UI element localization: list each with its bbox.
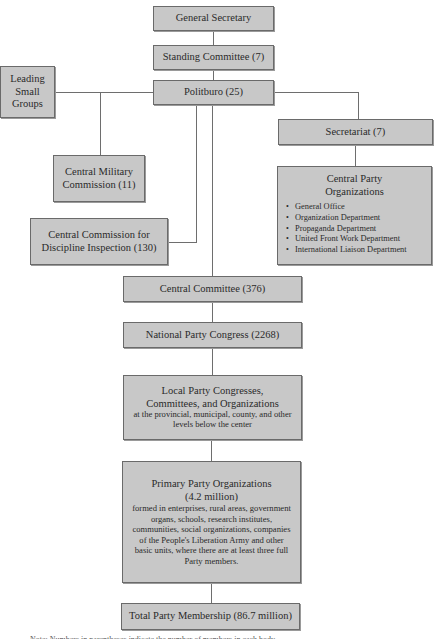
node-label-line: (4.2 million) [185, 491, 238, 504]
node-label-line: Organizations [325, 186, 384, 199]
node-total-membership: Total Party Membership (86.7 million) [121, 603, 300, 630]
node-label-line: Small [15, 86, 40, 99]
connector-secretariat-drop [358, 92, 359, 119]
node-label-line: Primary Party Organizations [152, 478, 272, 491]
connector-gs-sc [213, 31, 214, 45]
footnote: Note: Numbers in parentheses indicate th… [30, 633, 410, 639]
node-label-line: Commission (11) [63, 179, 136, 192]
connector-npc-local [212, 348, 213, 375]
connector-ccdi-horizontal [168, 242, 197, 243]
department-item: Organization Department [286, 213, 407, 224]
node-label: Secretariat (7) [326, 126, 386, 139]
connector-pb-lsg [55, 92, 153, 93]
connector-local-primary [211, 440, 212, 461]
node-label: National Party Congress (2268) [146, 329, 279, 342]
node-label: Central Committee (376) [160, 283, 266, 296]
node-local-party: Local Party Congresses, Committees, and … [123, 375, 302, 440]
department-item: General Office [286, 202, 407, 213]
node-label: Total Party Membership (86.7 million) [129, 610, 292, 623]
node-central-party-organizations: Central Party Organizations General Offi… [277, 166, 432, 265]
node-label-line: Central Commission for [48, 229, 150, 242]
connector-ccdi-vertical [196, 105, 197, 243]
node-description: at the provincial, municipal, county, an… [130, 410, 295, 430]
department-item: United Front Work Department [286, 234, 407, 245]
node-description: formed in enterprises, rural areas, gove… [131, 503, 292, 566]
node-secretariat: Secretariat (7) [278, 119, 433, 145]
node-politburo: Politburo (25) [153, 80, 274, 105]
node-central-committee: Central Committee (376) [123, 276, 302, 302]
node-national-party-congress: National Party Congress (2268) [123, 322, 302, 348]
department-list: General Office Organization Department P… [278, 202, 407, 256]
node-label-line: Discipline Inspection (130) [42, 242, 157, 255]
department-item: International Liaison Department [286, 245, 407, 256]
node-label: Standing Committee (7) [163, 51, 265, 64]
connector-pb-cc [212, 105, 213, 276]
connector-primary-total [211, 583, 212, 603]
node-ccdi: Central Commission for Discipline Inspec… [30, 218, 168, 265]
connector-pb-secretariat [274, 92, 358, 93]
node-standing-committee: Standing Committee (7) [153, 45, 274, 70]
node-central-military-commission: Central Military Commission (11) [53, 155, 145, 202]
node-general-secretary: General Secretary [153, 6, 274, 31]
node-leading-small-groups: Leading Small Groups [0, 66, 55, 118]
connector-sc-pb [213, 70, 214, 80]
connector-secretariat-cpo [355, 145, 356, 166]
connector-cmc [100, 92, 101, 155]
node-label-line: Central Military [65, 166, 133, 179]
department-item: Propaganda Department [286, 224, 407, 235]
node-label-line: Central Party [327, 173, 383, 186]
node-primary-party: Primary Party Organizations (4.2 million… [122, 461, 301, 583]
node-label: General Secretary [176, 12, 252, 25]
connector-cc-npc [212, 302, 213, 322]
node-label-line: Local Party Congresses, [162, 385, 264, 398]
node-label-line: Leading [10, 73, 44, 86]
node-label: Politburo (25) [184, 86, 243, 99]
node-label-line: Groups [12, 98, 43, 111]
